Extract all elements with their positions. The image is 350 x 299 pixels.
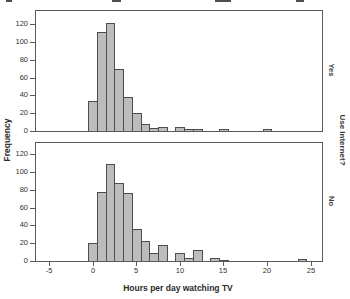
x-tick-label: 5 <box>126 267 146 275</box>
cropped-text-fragment <box>112 0 121 2</box>
panel-no <box>35 142 323 262</box>
y-tick-label: 100 <box>8 38 28 46</box>
y-tick-mark <box>30 78 35 79</box>
histogram-bar <box>193 250 203 261</box>
y-tick-label: 100 <box>8 168 28 176</box>
x-tick-label: 10 <box>170 267 190 275</box>
y-axis-title: Frequency <box>2 119 12 162</box>
y-tick-mark <box>30 113 35 114</box>
x-tick-label: -5 <box>39 267 59 275</box>
y-tick-label: 40 <box>8 221 28 229</box>
y-tick-label: 20 <box>8 239 28 247</box>
x-tick-label: 25 <box>301 267 321 275</box>
y-tick-label: 60 <box>8 74 28 82</box>
y-tick-mark <box>30 190 35 191</box>
cropped-text-fragment <box>6 0 12 2</box>
cropped-text-fragment <box>296 0 304 2</box>
histogram-bar <box>219 129 229 131</box>
x-tick-label: 20 <box>257 267 277 275</box>
y-tick-mark <box>30 60 35 61</box>
panel-yes <box>35 10 323 132</box>
y-tick-mark <box>30 208 35 209</box>
y-tick-mark <box>30 225 35 226</box>
y-tick-mark <box>30 131 35 132</box>
y-tick-label: 60 <box>8 204 28 212</box>
y-tick-label: 20 <box>8 109 28 117</box>
y-tick-label: 120 <box>8 20 28 28</box>
histogram-bar <box>158 245 168 261</box>
y-tick-mark <box>30 154 35 155</box>
y-tick-label: 0 <box>8 257 28 265</box>
histogram-bar <box>158 127 168 131</box>
y-tick-label: 80 <box>8 186 28 194</box>
y-tick-mark <box>30 261 35 262</box>
panel-dimension-label: Use Internet? <box>338 114 347 165</box>
histogram-bar <box>298 259 307 261</box>
y-tick-mark <box>30 95 35 96</box>
panel-label-yes: Yes <box>327 64 336 77</box>
y-tick-label: 40 <box>8 91 28 99</box>
y-tick-mark <box>30 42 35 43</box>
cropped-text-fragment <box>215 0 231 2</box>
panel-label-no: No <box>327 196 336 206</box>
x-tick-label: 15 <box>213 267 233 275</box>
y-tick-label: 80 <box>8 56 28 64</box>
histogram-bar <box>193 129 203 131</box>
x-tick-label: 0 <box>83 267 103 275</box>
histogram-bar <box>219 260 229 261</box>
x-axis-title: Hours per day watching TV <box>123 283 233 293</box>
histogram-bar <box>263 129 272 131</box>
y-tick-mark <box>30 172 35 173</box>
y-tick-mark <box>30 24 35 25</box>
y-tick-mark <box>30 243 35 244</box>
histogram-figure: 020406080100120020406080100120-505101520… <box>0 0 350 299</box>
